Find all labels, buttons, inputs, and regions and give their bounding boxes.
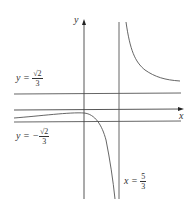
lower-num: √2	[39, 127, 49, 137]
upper-asymptote-line	[14, 93, 181, 94]
lower-asymptote-label: y = −√23	[16, 127, 49, 146]
right-branch-curve	[126, 22, 180, 81]
upper-asymptote-label: y = √23	[16, 69, 43, 88]
lower-den: 3	[39, 137, 49, 146]
vertical-num: 5	[140, 172, 146, 182]
upper-num: √2	[32, 69, 42, 79]
x-axis-label: x	[179, 110, 183, 121]
vertical-asymptote-label: x = 53	[124, 172, 146, 191]
vertical-den: 3	[140, 182, 146, 191]
vertical-prefix: x =	[124, 175, 140, 186]
x-axis	[14, 109, 181, 110]
chart-plot	[0, 0, 196, 199]
lower-prefix: y = −	[16, 130, 39, 141]
left-branch-curve	[14, 113, 115, 199]
y-axis-arrow-icon	[82, 19, 86, 25]
upper-prefix: y =	[16, 72, 32, 83]
upper-den: 3	[32, 79, 42, 88]
y-axis-label: y	[74, 14, 78, 25]
